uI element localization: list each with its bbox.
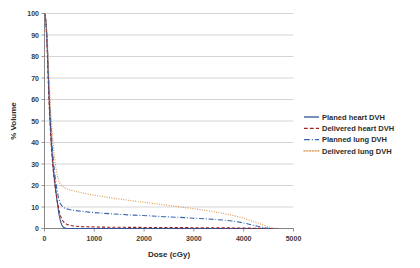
y-tick-label: 60	[31, 96, 39, 103]
x-axis-title: Dose (cGy)	[148, 250, 191, 259]
y-tick-label: 0	[35, 225, 39, 232]
chart-canvas: 0102030405060708090100010002000300040005…	[0, 0, 420, 268]
legend-label[interactable]: Planed heart DVH	[322, 113, 385, 122]
x-tick-label: 2000	[136, 235, 152, 242]
x-tick-label: 5000	[286, 235, 302, 242]
legend-label[interactable]: Delivered heart DVH	[322, 124, 394, 133]
y-tick-label: 50	[31, 118, 39, 125]
legend-label[interactable]: Planned lung DVH	[322, 135, 387, 144]
y-tick-label: 90	[31, 32, 39, 39]
y-tick-label: 70	[31, 75, 39, 82]
legend: Planed heart DVHDelivered heart DVHPlann…	[304, 113, 394, 156]
y-tick-label: 20	[31, 182, 39, 189]
y-tick-label: 100	[27, 10, 39, 17]
x-tick-label: 4000	[236, 235, 252, 242]
x-tick-label: 1000	[87, 235, 103, 242]
x-axis-ticks: 010002000300040005000	[43, 229, 302, 242]
x-tick-label: 3000	[186, 235, 202, 242]
dvh-chart: 0102030405060708090100010002000300040005…	[0, 0, 420, 268]
y-axis-ticks: 0102030405060708090100	[27, 10, 44, 232]
y-tick-label: 80	[31, 53, 39, 60]
x-tick-label: 0	[43, 235, 47, 242]
y-axis-title: % Volume	[9, 102, 18, 140]
gridlines	[45, 14, 294, 229]
y-tick-label: 40	[31, 139, 39, 146]
y-tick-label: 30	[31, 161, 39, 168]
legend-label[interactable]: Delivered lung DVH	[322, 147, 392, 156]
y-tick-label: 10	[31, 204, 39, 211]
